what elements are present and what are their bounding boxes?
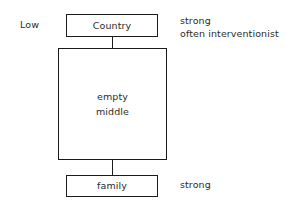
diagram-canvas: Low Country empty middle family strong o… <box>0 0 294 206</box>
right-note-top-line2: often interventionist <box>180 28 279 41</box>
left-label-low: Low <box>20 19 39 32</box>
node-empty-middle-label-line1: empty <box>97 89 128 104</box>
right-note-bottom: strong <box>180 179 211 192</box>
node-country[interactable]: Country <box>66 14 158 37</box>
node-family-label: family <box>97 179 127 193</box>
right-note-bottom-line1: strong <box>180 179 211 192</box>
connector-middle-to-family <box>112 159 113 176</box>
node-empty-middle[interactable]: empty middle <box>58 48 167 160</box>
right-note-top: strong often interventionist <box>180 15 279 40</box>
node-country-label: Country <box>93 19 131 33</box>
node-family[interactable]: family <box>66 175 158 197</box>
right-note-top-line1: strong <box>180 15 279 28</box>
node-empty-middle-label-line2: middle <box>96 104 129 119</box>
